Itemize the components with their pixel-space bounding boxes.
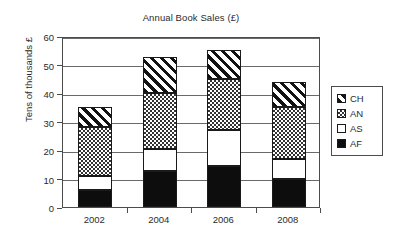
legend-entries: CHANASAF bbox=[337, 91, 378, 151]
y-axis-tick-label: 30 bbox=[24, 117, 54, 128]
y-axis-tick-label: 20 bbox=[24, 146, 54, 157]
legend: CHANASAF bbox=[331, 86, 383, 156]
legend-entry-ch: CH bbox=[337, 91, 378, 106]
bar-segment-af bbox=[272, 179, 306, 208]
bar-segment-ch bbox=[143, 57, 177, 93]
bar-segment-as bbox=[272, 159, 306, 179]
x-axis-tick-label: 2008 bbox=[258, 214, 318, 225]
plot-area bbox=[62, 37, 320, 208]
x-axis-tick-mark bbox=[256, 208, 257, 213]
x-axis-tick-label: 2006 bbox=[193, 214, 253, 225]
diagonal-hatch-swatch bbox=[337, 94, 346, 103]
x-axis-tick-mark bbox=[320, 208, 321, 213]
gridline bbox=[63, 38, 319, 39]
bar-stack bbox=[272, 82, 306, 207]
solid-black-swatch bbox=[337, 139, 346, 148]
bar-stack bbox=[143, 57, 177, 207]
bar-segment-as bbox=[78, 176, 112, 190]
bar-segment-an bbox=[207, 79, 241, 130]
chart-container: Annual Book Sales (£) Tens of thousands … bbox=[0, 0, 394, 245]
legend-entry-label: CH bbox=[350, 94, 364, 104]
legend-entry-label: AN bbox=[350, 109, 363, 119]
bar-segment-ch bbox=[78, 107, 112, 127]
y-axis-title: Tens of thousands £ bbox=[23, 0, 34, 170]
x-axis-tick-label: 2004 bbox=[129, 214, 189, 225]
y-axis-tick-label: 0 bbox=[24, 203, 54, 214]
bar-stack bbox=[207, 50, 241, 207]
bar-segment-as bbox=[143, 149, 177, 172]
bar-segment-ch bbox=[272, 82, 306, 108]
x-axis-tick-label: 2002 bbox=[64, 214, 124, 225]
gridline bbox=[63, 66, 319, 67]
bar-segment-an bbox=[143, 93, 177, 149]
bar-segment-an bbox=[272, 107, 306, 158]
x-axis-tick-mark bbox=[191, 208, 192, 213]
y-axis-tick-label: 60 bbox=[24, 32, 54, 43]
x-axis-tick-mark bbox=[127, 208, 128, 213]
legend-entry-label: AS bbox=[350, 124, 363, 134]
legend-entry-as: AS bbox=[337, 121, 378, 136]
y-axis-tick-label: 40 bbox=[24, 89, 54, 100]
bar-segment-af bbox=[143, 171, 177, 207]
bar-segment-af bbox=[207, 166, 241, 207]
legend-entry-label: AF bbox=[350, 139, 362, 149]
bar-segment-as bbox=[207, 130, 241, 166]
legend-entry-an: AN bbox=[337, 106, 378, 121]
legend-entry-af: AF bbox=[337, 136, 378, 151]
chart-title: Annual Book Sales (£) bbox=[62, 12, 320, 23]
bar-segment-af bbox=[78, 190, 112, 207]
bar-segment-an bbox=[78, 127, 112, 175]
bar-segment-ch bbox=[207, 50, 241, 79]
y-axis-tick-label: 10 bbox=[24, 174, 54, 185]
bar-stack bbox=[78, 107, 112, 207]
white-swatch bbox=[337, 124, 346, 133]
stipple-checker-swatch bbox=[337, 109, 346, 118]
y-axis-tick-label: 50 bbox=[24, 60, 54, 71]
